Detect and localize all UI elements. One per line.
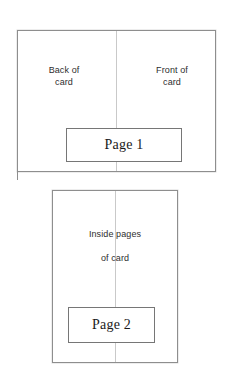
page-2-box: Page 2: [68, 307, 155, 343]
caption-back-of-card: Back of card: [25, 64, 103, 88]
caption-inside-pages-of-card: Inside pages of card: [56, 222, 174, 270]
page-1-box: Page 1: [66, 128, 182, 162]
page-2-label: Page 2: [92, 317, 131, 333]
page-1-label: Page 1: [105, 137, 144, 153]
caption-front-of-card: Front of card: [133, 64, 211, 88]
exterior-corner-tick-mark: [17, 171, 18, 180]
diagram-canvas: Back of card Front of card Page 1 Inside…: [0, 0, 232, 388]
